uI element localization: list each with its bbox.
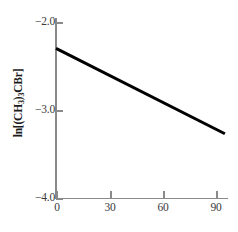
data-series-line bbox=[56, 48, 225, 133]
data-line-layer bbox=[0, 0, 238, 232]
chart-figure: −2.0 −3.0 −4.0 0 30 60 90 ln[(CH3)3CBr] bbox=[0, 0, 238, 232]
